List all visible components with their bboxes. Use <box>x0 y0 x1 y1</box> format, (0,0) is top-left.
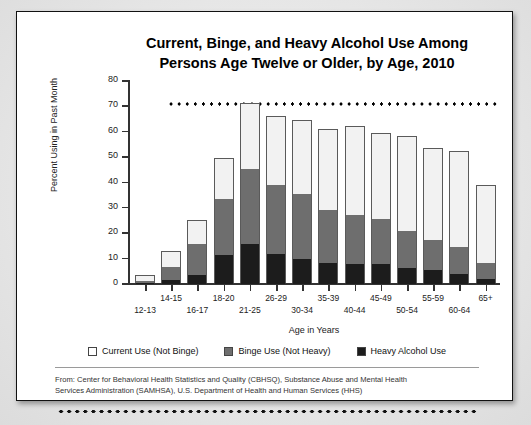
stacked-bar[interactable] <box>266 116 286 283</box>
source-note: From: Center for Behavioral Health Stati… <box>55 374 483 397</box>
chart-legend: Current Use (Not Binge)Binge Use (Not He… <box>57 346 477 356</box>
stacked-bar[interactable] <box>240 103 260 283</box>
stacked-bar[interactable] <box>161 251 181 283</box>
y-axis-tick: 0 <box>122 283 129 285</box>
y-axis-tick-label: 80 <box>108 74 122 84</box>
x-axis-tick-label: 30-34 <box>279 305 325 315</box>
bar-segment <box>293 259 311 284</box>
x-axis-tick <box>459 284 461 291</box>
x-axis-tick <box>197 284 199 291</box>
stacked-bar[interactable] <box>214 158 234 283</box>
x-axis-tick-label: 65+ <box>463 293 509 303</box>
x-axis-tick <box>328 284 330 291</box>
white-square-icon <box>88 347 97 356</box>
source-line-2: Services Administration (SAMHSA), U.S. D… <box>55 385 483 396</box>
bar-segment <box>241 244 259 284</box>
y-axis-tick: 50 <box>122 156 129 158</box>
stacked-bar[interactable] <box>135 275 155 283</box>
bar-segment <box>267 185 285 254</box>
bar-segment <box>215 255 233 284</box>
stacked-bar[interactable] <box>397 136 417 283</box>
bar-segment <box>188 221 206 244</box>
y-axis-tick: 10 <box>122 258 129 260</box>
bar-segment <box>293 194 311 259</box>
legend-item[interactable]: Binge Use (Not Heavy) <box>224 346 330 356</box>
bar-segment <box>215 159 233 199</box>
bar-series-container <box>129 80 500 283</box>
stacked-bar[interactable] <box>371 133 391 283</box>
x-axis-tick <box>250 284 252 291</box>
bar-segment <box>293 121 311 195</box>
x-axis-line <box>128 283 500 285</box>
source-divider <box>55 367 479 368</box>
x-axis-tick-label: 35-39 <box>305 293 351 303</box>
stacked-bar[interactable] <box>345 126 365 283</box>
x-axis-tick <box>302 284 304 291</box>
bar-segment <box>424 240 442 270</box>
x-axis-tick-label: 18-20 <box>201 293 247 303</box>
bar-segment <box>241 104 259 168</box>
y-axis-tick-label: 60 <box>108 125 122 135</box>
legend-item[interactable]: Current Use (Not Binge) <box>88 346 199 356</box>
bar-segment <box>188 244 206 274</box>
bar-segment <box>398 268 416 285</box>
bar-segment <box>188 275 206 284</box>
stacked-bar[interactable] <box>423 148 443 283</box>
y-axis-tick-label: 0 <box>113 277 122 287</box>
y-axis-tick-label: 10 <box>108 252 122 262</box>
bar-segment <box>450 152 468 248</box>
stacked-bar[interactable] <box>187 220 207 283</box>
bar-segment <box>424 149 442 240</box>
stacked-bar[interactable] <box>476 185 496 283</box>
y-axis-tick-label: 30 <box>108 201 122 211</box>
x-axis-tick-label: 45-49 <box>358 293 404 303</box>
bar-segment <box>372 134 390 220</box>
stacked-bar[interactable] <box>292 120 312 283</box>
bar-segment <box>372 264 390 284</box>
x-axis-tick-label: 50-54 <box>384 305 430 315</box>
bar-segment <box>424 270 442 284</box>
y-axis-tick-label: 20 <box>108 226 122 236</box>
x-axis-tick <box>224 284 226 291</box>
bar-segment <box>215 199 233 255</box>
bar-segment <box>477 263 495 279</box>
bar-segment <box>162 252 180 266</box>
x-axis-tick-label: 40-44 <box>332 305 378 315</box>
y-axis-tick: 30 <box>122 207 129 209</box>
x-axis-label: Age in Years <box>128 325 500 335</box>
source-line-1: From: Center for Behavioral Health Stati… <box>55 374 483 385</box>
x-axis-tick <box>171 284 173 291</box>
bar-segment <box>319 130 337 210</box>
bar-segment <box>241 169 259 245</box>
bar-segment <box>319 263 337 284</box>
chart-plot-area: Percent Using in Past Month 010203040506… <box>17 12 514 402</box>
bar-segment <box>346 264 364 284</box>
y-axis-tick: 20 <box>122 232 129 234</box>
legend-item-label: Binge Use (Not Heavy) <box>238 346 330 356</box>
bar-segment <box>267 254 285 284</box>
bar-segment <box>398 137 416 231</box>
legend-item[interactable]: Heavy Alcohol Use <box>357 346 447 356</box>
bar-segment <box>162 267 180 280</box>
bar-segment <box>450 274 468 284</box>
y-axis-tick-label: 50 <box>108 150 122 160</box>
x-axis-tick <box>486 284 488 291</box>
x-axis-tick-label: 12-13 <box>122 305 168 315</box>
x-axis-tick-label: 16-17 <box>174 305 220 315</box>
y-axis-tick: 70 <box>122 105 129 107</box>
y-axis-tick-label: 70 <box>108 99 122 109</box>
stacked-bar[interactable] <box>318 129 338 283</box>
bar-segment <box>398 231 416 268</box>
bar-segment <box>319 210 337 263</box>
y-axis-tick: 60 <box>122 131 129 133</box>
legend-item-label: Heavy Alcohol Use <box>371 346 447 356</box>
y-axis-tick: 40 <box>122 182 129 184</box>
stacked-bar[interactable] <box>449 151 469 283</box>
x-axis-tick-label: 14-15 <box>148 293 194 303</box>
decorative-dotted-line-bottom <box>57 409 477 414</box>
bar-segment <box>477 186 495 263</box>
x-axis-tick-label: 26-29 <box>253 293 299 303</box>
bar-segment <box>346 127 364 215</box>
y-axis-label: Percent Using in Past Month <box>49 60 59 210</box>
x-axis-tick <box>381 284 383 291</box>
